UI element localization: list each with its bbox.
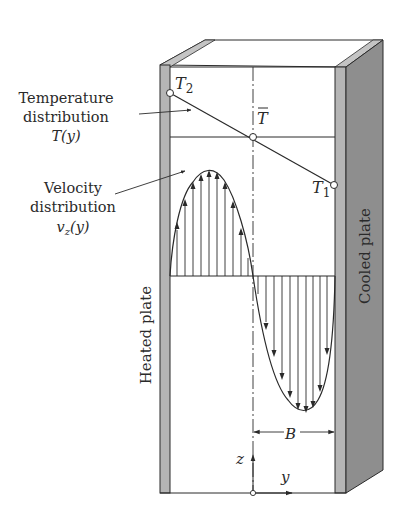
velocity-profile-curve xyxy=(170,170,335,410)
tbar-label: T xyxy=(257,109,269,128)
tbar-point xyxy=(250,134,257,141)
origin-point xyxy=(250,490,255,495)
t1-point xyxy=(331,182,338,189)
svg-text:Temperature: Temperature xyxy=(19,90,114,106)
svg-text:T(y): T(y) xyxy=(51,128,80,144)
svg-text:distribution: distribution xyxy=(30,199,116,215)
temperature-distribution-label: Temperature distribution T(y) xyxy=(19,90,114,144)
svg-text:distribution: distribution xyxy=(23,109,109,125)
velocity-distribution-label: Velocity distribution vz(y) xyxy=(30,180,116,237)
velocity-leader-arrow xyxy=(115,171,185,194)
cooled-plate-label: Cooled plate xyxy=(356,208,374,304)
t2-point xyxy=(167,90,174,97)
free-convection-diagram: B z y T2 T T1 Temperature distribution T… xyxy=(0,0,399,505)
svg-text:vz(y): vz(y) xyxy=(57,219,90,237)
y-axis-label: y xyxy=(280,468,290,486)
downward-velocity-vectors xyxy=(258,276,327,411)
upward-velocity-vectors xyxy=(177,172,248,276)
z-axis-label: z xyxy=(235,450,244,468)
heated-plate xyxy=(160,65,170,493)
b-dimension-label: B xyxy=(284,425,296,443)
svg-text:Velocity: Velocity xyxy=(43,180,103,196)
t2-label: T2 xyxy=(175,74,193,96)
heated-plate-label: Heated plate xyxy=(137,286,155,385)
box-top xyxy=(160,40,383,67)
